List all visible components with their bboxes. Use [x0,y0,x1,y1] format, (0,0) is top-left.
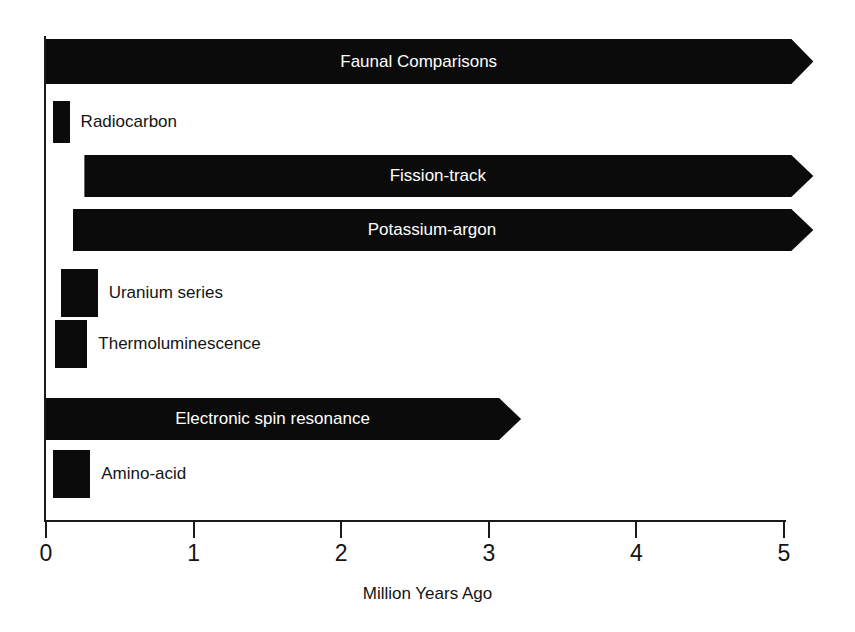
x-tick-1 [193,521,195,538]
bar-uranium-series[interactable] [61,269,98,317]
x-tick-0 [45,521,47,538]
x-tick-label-0: 0 [26,540,66,567]
x-axis-line [46,520,786,522]
bar-potassium-argon[interactable] [73,209,814,251]
x-tick-label-4: 4 [616,540,656,567]
x-tick-label-2: 2 [321,540,361,567]
bar-label-radiocarbon: Radiocarbon [81,113,177,130]
x-tick-3 [488,521,490,538]
x-tick-label-5: 5 [764,540,804,567]
bar-radiocarbon[interactable] [53,101,69,143]
bar-fission-track[interactable] [84,155,813,197]
bar-faunal-comparisons[interactable] [46,39,813,84]
x-tick-label-3: 3 [469,540,509,567]
x-tick-label-1: 1 [174,540,214,567]
plot-area: Faunal ComparisonsRadiocarbonFission-tra… [0,0,855,632]
bar-label-uranium-series: Uranium series [109,284,223,301]
bar-electronic-spin-resonance[interactable] [46,398,521,440]
range-chart: Faunal ComparisonsRadiocarbonFission-tra… [0,0,855,632]
x-tick-5 [783,521,785,538]
x-tick-2 [340,521,342,538]
x-tick-4 [635,521,637,538]
x-axis-title: Million Years Ago [0,584,855,604]
bar-label-thermoluminescence: Thermoluminescence [98,335,261,352]
bar-amino-acid[interactable] [53,450,90,498]
bar-label-amino-acid: Amino-acid [101,465,186,482]
bar-thermoluminescence[interactable] [55,320,87,368]
y-axis-line [44,36,46,522]
